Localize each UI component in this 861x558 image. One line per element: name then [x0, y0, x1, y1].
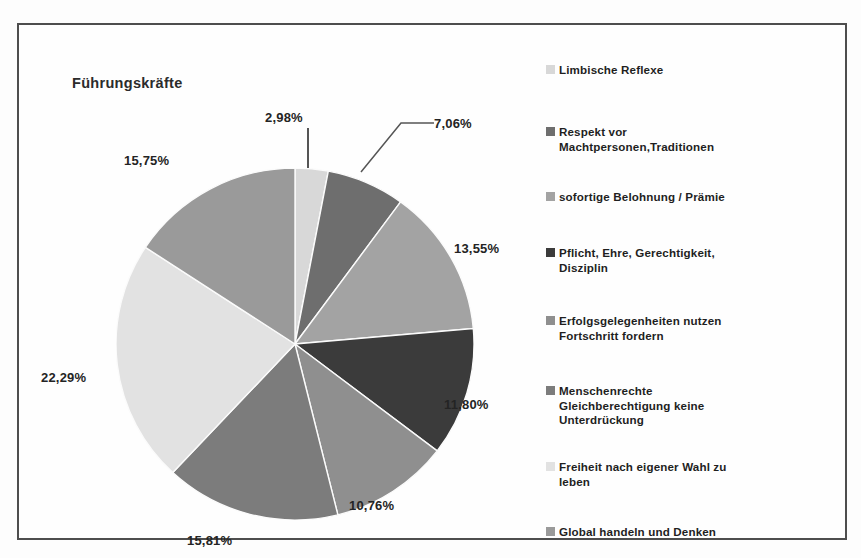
legend-item[interactable]: Respekt vor Machtpersonen,Traditionen [546, 125, 714, 154]
legend-item-label: Pflicht, Ehre, Gerechtigkeit, Disziplin [559, 246, 715, 275]
pie-svg [116, 168, 474, 520]
legend-item-label: Global handeln und Denken [559, 525, 716, 540]
legend-swatch-icon [546, 462, 555, 471]
scanned-page-background: Führungskräfte 2,98%7,06%13,55%11,80%10,… [0, 0, 861, 558]
legend-item[interactable]: Freiheit nach eigener Wahl zu leben [546, 460, 727, 489]
legend-item-label: Limbische Reflexe [559, 63, 663, 78]
legend-swatch-icon [546, 316, 555, 325]
legend-swatch-icon [546, 192, 555, 201]
legend-swatch-icon [546, 386, 555, 395]
legend-item-label: Freiheit nach eigener Wahl zu leben [559, 460, 727, 489]
legend-swatch-icon [546, 65, 555, 74]
label-22-29: 22,29% [41, 370, 86, 385]
legend-item[interactable]: Limbische Reflexe [546, 63, 663, 78]
label-13-55: 13,55% [454, 241, 499, 256]
label-15-81: 15,81% [187, 533, 232, 548]
legend-swatch-icon [546, 127, 555, 136]
label-2-98: 2,98% [265, 110, 303, 125]
legend-item-label: Erfolgsgelegenheiten nutzen Fortschritt … [559, 314, 722, 343]
legend-swatch-icon [546, 527, 555, 536]
pie-slice-group [116, 168, 474, 520]
label-10-76: 10,76% [349, 498, 394, 513]
legend-item-label: Respekt vor Machtpersonen,Traditionen [559, 125, 714, 154]
chart-frame: Führungskräfte 2,98%7,06%13,55%11,80%10,… [17, 23, 847, 540]
legend-item[interactable]: Pflicht, Ehre, Gerechtigkeit, Disziplin [546, 246, 715, 275]
label-11-80: 11,80% [444, 397, 489, 412]
legend-swatch-icon [546, 248, 555, 257]
legend-item-label: Menschenrechte Gleichberechtigung keine … [559, 384, 704, 428]
legend-item-label: sofortige Belohnung / Prämie [559, 190, 725, 205]
chart-title: Führungskräfte [72, 75, 183, 91]
legend-item[interactable]: Global handeln und Denken [546, 525, 716, 540]
leader-line-2-98 [307, 128, 309, 170]
legend-item[interactable]: Menschenrechte Gleichberechtigung keine … [546, 384, 704, 428]
label-7-06: 7,06% [434, 116, 472, 131]
pie-chart [116, 168, 474, 520]
legend-item[interactable]: Erfolgsgelegenheiten nutzen Fortschritt … [546, 314, 722, 343]
label-15-75: 15,75% [124, 153, 169, 168]
legend-item[interactable]: sofortige Belohnung / Prämie [546, 190, 725, 205]
